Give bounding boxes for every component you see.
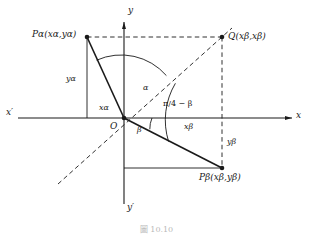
axis-label-x-negative: x′	[6, 108, 13, 117]
segment-label-y-alpha: yα	[66, 75, 76, 83]
point-label-p-beta: Pβ(xβ,yβ)	[199, 173, 241, 182]
y-axis-arrowhead-top	[122, 22, 126, 29]
segment-label-y-beta: yβ	[227, 138, 236, 146]
angle-arc-beta	[150, 118, 152, 129]
axis-label-y-positive: y	[128, 6, 133, 15]
point-marker-q	[220, 35, 225, 40]
angle-label-beta: β	[137, 126, 142, 134]
point-label-p-beta-text: Pβ(xβ,yβ)	[199, 172, 241, 182]
figure-caption: 圖 10.10	[0, 223, 313, 234]
origin-label: O	[110, 122, 117, 131]
segment-label-x-beta: xβ	[184, 123, 193, 131]
point-label-q: Q(xβ,xβ)	[228, 32, 266, 41]
x-axis-arrowhead	[285, 116, 292, 120]
point-marker-origin	[122, 116, 127, 121]
angle-arc-pi-over-4-minus-beta	[165, 83, 175, 141]
segment-label-x-alpha: xα	[99, 104, 109, 112]
figure-container: x′ x y y′ O Pα(xα,yα) Q(xβ,xβ) Pβ(xβ,yβ)…	[0, 0, 313, 234]
point-label-p-alpha-text: Pα(xα,yα)	[32, 29, 76, 39]
axis-label-y-negative: y′	[127, 203, 134, 212]
point-label-q-text: Q(xβ,xβ)	[228, 31, 266, 41]
angle-label-pi-over-4-minus-beta: π/4 − β	[163, 100, 192, 108]
angle-arc-alpha	[97, 55, 167, 76]
point-marker-p-alpha	[85, 35, 90, 40]
angle-label-alpha: α	[143, 84, 148, 92]
axis-label-x-positive: x	[296, 111, 301, 120]
point-label-p-alpha: Pα(xα,yα)	[32, 30, 76, 39]
point-marker-p-beta	[220, 166, 225, 171]
